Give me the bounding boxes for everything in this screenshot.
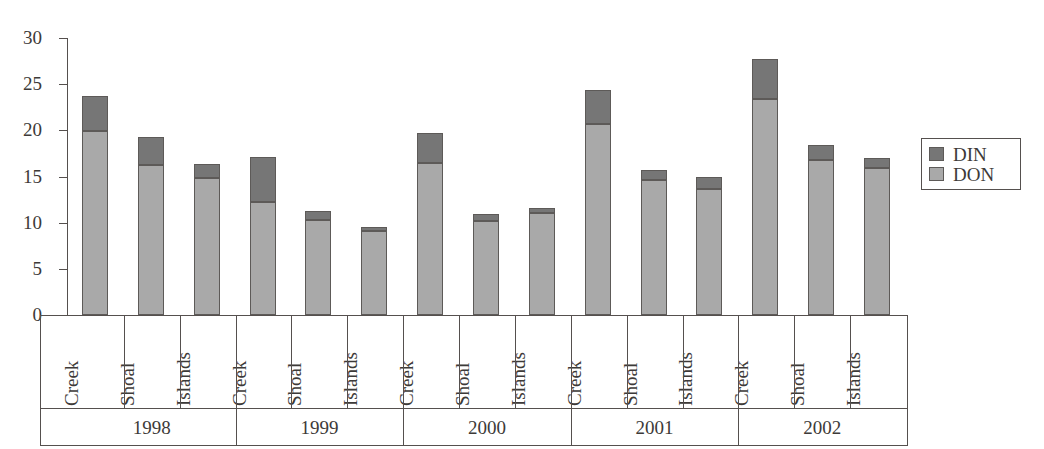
category-separator [683,316,684,409]
bar-segment-din [361,227,387,231]
bar-segment-don [194,178,220,315]
legend-entry-din: DIN [929,144,1013,164]
bar-segment-din [82,96,108,131]
bar-1998-shoal [138,137,164,315]
bar-segment-don [417,163,443,315]
bar-2000-shoal [473,214,499,315]
category-axis: CreekShoalIslandsCreekShoalIslandsCreekS… [40,316,908,409]
bar-2000-islands [529,208,555,315]
bar-segment-din [138,137,164,166]
bar-segment-din [864,158,890,168]
category-label: Shoal [282,313,308,406]
bar-segment-din [529,208,555,214]
category-label: Creek [729,313,755,406]
year-label-2000: 2000 [403,409,571,446]
category-separator [124,316,125,409]
bar-1999-shoal [305,211,331,315]
category-label: Shoal [450,313,476,406]
bar-segment-don [250,202,276,315]
category-separator [403,316,404,409]
category-separator [180,316,181,409]
category-separator [627,316,628,409]
bar-segment-din [194,164,220,179]
category-separator [347,316,348,409]
bar-segment-din [808,145,834,160]
bar-2002-shoal [808,145,834,315]
category-separator [850,316,851,409]
bar-2001-creek [585,90,611,315]
bar-segment-din [305,211,331,220]
year-label-1999: 1999 [236,409,404,446]
bar-2002-islands [864,158,890,315]
bar-segment-don [361,231,387,315]
y-tick-label-20: 20 [0,120,52,139]
category-label: Shoal [115,313,141,406]
category-separator [571,316,572,409]
year-separator [236,409,237,446]
bar-segment-don [585,124,611,315]
bar-2001-shoal [641,170,667,315]
chart-legend: DIN DON [921,138,1021,190]
category-label: Islands [673,313,699,406]
bar-segment-don [473,221,499,315]
y-tick-label-10: 10 [0,213,52,232]
category-label: Creek [59,313,85,406]
legend-swatch-din [929,147,944,161]
year-separator [738,409,739,446]
bar-1999-islands [361,227,387,315]
year-separator [403,409,404,446]
bar-segment-don [138,165,164,315]
bar-segment-don [305,220,331,315]
plot-area [67,38,905,315]
category-separator [515,316,516,409]
bar-segment-don [864,168,890,315]
bars-layer [67,38,905,315]
bar-segment-din [641,170,667,180]
bar-2001-islands [696,177,722,315]
bar-segment-din [696,177,722,189]
category-label: Creek [227,313,253,406]
bar-segment-din [417,133,443,163]
legend-label-din: DIN [953,145,987,164]
category-label: Islands [506,313,532,406]
bar-segment-din [250,157,276,202]
bar-2000-creek [417,133,443,315]
legend-swatch-don [929,167,944,181]
category-separator [236,316,237,409]
bar-segment-don [529,213,555,315]
bar-segment-din [473,214,499,220]
bar-segment-din [752,59,778,99]
year-label-2001: 2001 [571,409,739,446]
y-tick-label-15: 15 [0,167,52,186]
category-separator [459,316,460,409]
y-tick-label-25: 25 [0,74,52,93]
bar-2002-creek [752,59,778,315]
bar-segment-don [752,99,778,315]
year-separator [571,409,572,446]
category-label: Creek [562,313,588,406]
bar-segment-don [641,180,667,315]
bar-1998-creek [82,96,108,315]
legend-label-don: DON [953,165,994,184]
bar-segment-din [585,90,611,124]
bar-1998-islands [194,164,220,315]
year-label-1998: 1998 [68,409,236,446]
y-tick-label-5: 5 [0,259,52,278]
category-label: Islands [841,313,867,406]
category-label: Creek [394,313,420,406]
category-separator [738,316,739,409]
category-label: Shoal [618,313,644,406]
category-label: Islands [171,313,197,406]
year-axis: 19981999200020012002 [40,409,908,446]
bar-1999-creek [250,157,276,315]
legend-entry-don: DON [929,164,1013,184]
chart-figure: 302520151050 CreekShoalIslandsCreekShoal… [0,0,1044,449]
category-cell-2002-islands: Islands [850,316,906,409]
bar-segment-don [82,131,108,315]
bar-segment-don [696,189,722,315]
y-tick-label-30: 30 [0,28,52,47]
category-label: Islands [338,313,364,406]
category-label: Shoal [785,313,811,406]
year-label-2002: 2002 [738,409,906,446]
category-separator [794,316,795,409]
